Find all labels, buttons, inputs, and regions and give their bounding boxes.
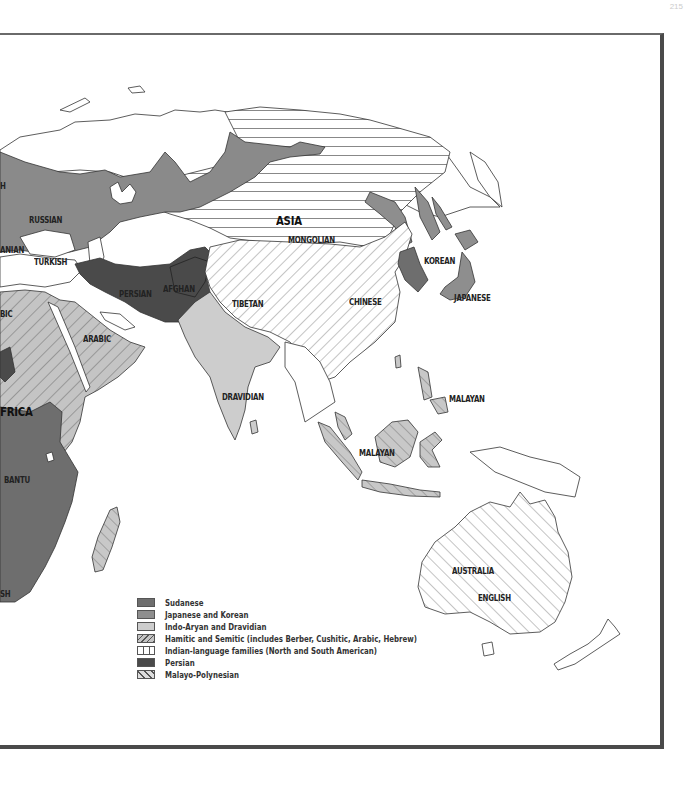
label-chinese: CHINESE: [349, 297, 382, 307]
legend-item-sudanese: Sudanese: [137, 597, 488, 609]
label-bantu: BANTU: [4, 475, 30, 485]
label-turkish: TURKISH: [34, 257, 67, 267]
label-asia: ASIA: [276, 213, 302, 228]
legend-item-indo-aryan-dravidian: Indo-Aryan and Dravidian: [137, 621, 488, 633]
label-afghan: AFGHAN: [163, 284, 195, 294]
label-russian: RUSSIAN: [29, 215, 62, 225]
label-africa: FRICA: [0, 404, 33, 419]
legend-label: Malayo-Polynesian: [165, 670, 239, 680]
new-zealand: [554, 619, 620, 670]
taiwan: [395, 355, 401, 368]
legend-label: Indian-language families (North and Sout…: [165, 646, 377, 656]
new-guinea: [470, 447, 580, 497]
swatch-back-hatch-icon: [137, 670, 155, 679]
legend-item-indian-language: Indian-language families (North and Sout…: [137, 645, 488, 657]
swatch-vertical-lines-icon: [137, 646, 155, 655]
japan-hokkaido: [455, 230, 478, 250]
swatch-solid-medium-icon: [137, 610, 155, 619]
swatch-solid-darkest-icon: [137, 658, 155, 667]
label-bushman: SH: [0, 589, 10, 599]
label-tibetan: TIBETAN: [232, 299, 263, 309]
philippines: [418, 367, 432, 400]
label-malayan-north: MALAYAN: [449, 394, 485, 404]
legend-item-persian: Persian: [137, 657, 488, 669]
novaya-zemlya: [60, 98, 90, 112]
java: [362, 480, 440, 497]
legend-label: Japanese and Korean: [165, 610, 249, 620]
label-arabic-west: BIC: [0, 309, 12, 319]
legend-label: Sudanese: [165, 598, 204, 608]
label-malayan-south: MALAYAN: [359, 448, 395, 458]
page-number: 215: [670, 2, 683, 11]
legend-label: Hamitic and Semitic (includes Berber, Cu…: [165, 634, 417, 644]
korea: [398, 247, 428, 292]
label-australia: AUSTRALIA: [452, 566, 494, 576]
legend-label: Persian: [165, 658, 195, 668]
borneo: [375, 420, 418, 467]
legend-item-malayo-polynesian: Malayo-Polynesian: [137, 669, 488, 681]
label-iranian: ANIAN: [0, 245, 24, 255]
map-legend: Sudanese Japanese and Korean Indo-Aryan …: [137, 597, 488, 681]
label-persian: PERSIAN: [119, 289, 152, 299]
label-dravidian: DRAVIDIAN: [222, 392, 264, 402]
madagascar: [92, 507, 120, 572]
swatch-solid-light-icon: [137, 622, 155, 631]
label-arabic: ARABIC: [83, 334, 111, 344]
mindanao: [430, 397, 448, 414]
sulawesi: [420, 432, 442, 467]
legend-item-hamitic-semitic: Hamitic and Semitic (includes Berber, Cu…: [137, 633, 488, 645]
swatch-forward-hatch-icon: [137, 634, 155, 643]
label-mongolian: MONGOLIAN: [288, 235, 335, 245]
label-japanese: JAPANESE: [454, 293, 491, 303]
swatch-solid-dark-icon: [137, 598, 155, 607]
sri-lanka: [250, 420, 258, 434]
legend-item-japanese-korean: Japanese and Korean: [137, 609, 488, 621]
label-korean: KOREAN: [424, 256, 455, 266]
island-north: [128, 86, 145, 93]
legend-label: Indo-Aryan and Dravidian: [165, 622, 266, 632]
label-finnish: H: [0, 181, 6, 191]
